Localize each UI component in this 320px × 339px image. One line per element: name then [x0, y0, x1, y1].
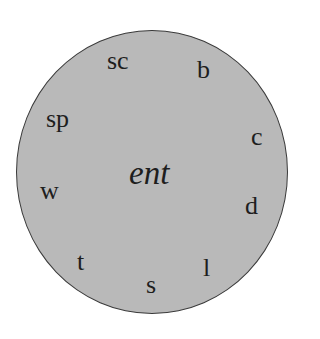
onset-d: d [245, 193, 258, 219]
center-rime: ent [129, 157, 169, 190]
onset-sc: sc [107, 48, 129, 74]
onset-b: b [197, 57, 210, 83]
onset-t: t [77, 249, 84, 275]
onset-c: c [251, 124, 263, 150]
onset-sp: sp [46, 106, 69, 132]
onset-w: w [40, 178, 59, 204]
onset-s: s [146, 272, 156, 298]
onset-l: l [203, 255, 210, 281]
